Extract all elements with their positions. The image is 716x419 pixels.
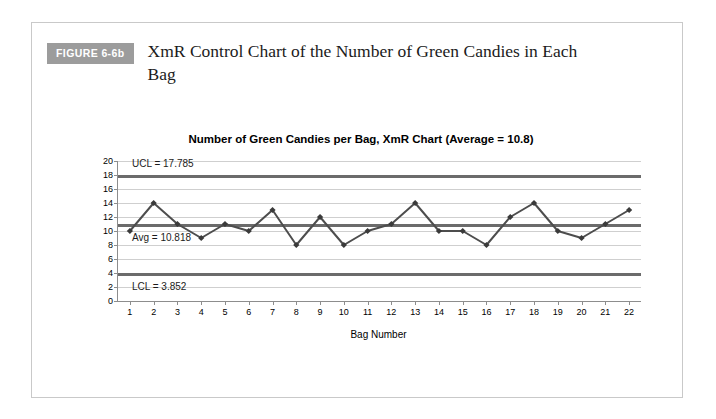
x-axis-tick-label: 4	[199, 307, 204, 317]
x-axis-tick-label: 13	[410, 307, 420, 317]
y-axis-tick-label: 16	[103, 184, 113, 194]
x-axis-tick-label: 7	[270, 307, 275, 317]
y-axis-tick-label: 4	[108, 268, 113, 278]
y-axis-tick-mark	[114, 301, 118, 302]
figure-number-badge: FIGURE 6-6b	[47, 43, 134, 64]
x-axis-tick-label: 15	[458, 307, 468, 317]
y-axis-tick-label: 2	[108, 282, 113, 292]
x-axis-tick-mark	[249, 301, 250, 305]
x-axis-tick-mark	[177, 301, 178, 305]
x-axis-tick-label: 20	[577, 307, 587, 317]
x-axis-tick-mark	[534, 301, 535, 305]
x-axis-tick-mark	[368, 301, 369, 305]
x-axis-tick-mark	[415, 301, 416, 305]
x-axis-tick-mark	[605, 301, 606, 305]
data-series-plot	[118, 161, 641, 301]
x-axis-tick-mark	[439, 301, 440, 305]
x-axis-tick-mark	[463, 301, 464, 305]
figure-caption-row: FIGURE 6-6b XmR Control Chart of the Num…	[47, 40, 647, 86]
x-axis-tick-mark	[225, 301, 226, 305]
x-axis-tick-label: 19	[553, 307, 563, 317]
y-axis-tick-label: 20	[103, 156, 113, 166]
x-axis-tick-mark	[582, 301, 583, 305]
x-axis-tick-label: 8	[294, 307, 299, 317]
x-axis-tick-mark	[201, 301, 202, 305]
x-axis-tick-label: 12	[386, 307, 396, 317]
x-axis-title: Bag Number	[117, 329, 640, 340]
x-axis-tick-label: 9	[318, 307, 323, 317]
plot-wrapper: 02468101214161820 1234567891011121314151…	[117, 161, 640, 301]
x-axis-tick-label: 5	[222, 307, 227, 317]
x-axis-tick-mark	[320, 301, 321, 305]
x-axis-tick-mark	[391, 301, 392, 305]
x-axis-tick-mark	[510, 301, 511, 305]
y-axis-tick-label: 18	[103, 170, 113, 180]
y-axis-tick-label: 6	[108, 254, 113, 264]
x-axis-tick-mark	[558, 301, 559, 305]
plot-area: 02468101214161820 1234567891011121314151…	[117, 161, 641, 302]
x-axis-tick-label: 14	[434, 307, 444, 317]
x-axis-tick-label: 3	[175, 307, 180, 317]
x-axis-tick-mark	[486, 301, 487, 305]
series-markers-group	[127, 200, 632, 248]
x-axis-tick-label: 2	[151, 307, 156, 317]
x-axis-tick-label: 21	[600, 307, 610, 317]
y-axis-tick-label: 10	[103, 226, 113, 236]
x-axis-tick-mark	[130, 301, 131, 305]
x-axis-tick-label: 10	[339, 307, 349, 317]
y-axis-tick-label: 14	[103, 198, 113, 208]
x-axis-tick-mark	[154, 301, 155, 305]
x-axis-tick-mark	[273, 301, 274, 305]
chart-title: Number of Green Candies per Bag, XmR Cha…	[76, 133, 646, 145]
x-axis-tick-mark	[344, 301, 345, 305]
series-line	[130, 203, 629, 245]
x-axis-tick-mark	[296, 301, 297, 305]
x-axis-tick-label: 1	[127, 307, 132, 317]
x-axis-tick-mark	[629, 301, 630, 305]
figure-caption-text: XmR Control Chart of the Number of Green…	[148, 40, 578, 86]
y-axis-tick-label: 0	[108, 296, 113, 306]
figure-page: FIGURE 6-6b XmR Control Chart of the Num…	[0, 0, 716, 419]
chart-container: Number of Green Candies per Bag, XmR Cha…	[76, 133, 646, 358]
x-axis-tick-label: 16	[481, 307, 491, 317]
x-axis-tick-label: 18	[529, 307, 539, 317]
x-axis-tick-label: 11	[363, 307, 372, 317]
y-axis-tick-label: 8	[108, 240, 113, 250]
x-axis-tick-label: 6	[246, 307, 251, 317]
y-axis-tick-label: 12	[103, 212, 113, 222]
x-axis-tick-label: 17	[505, 307, 515, 317]
x-axis-tick-label: 22	[624, 307, 634, 317]
